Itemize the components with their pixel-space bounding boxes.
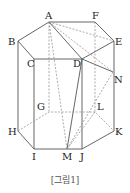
label-D: D <box>73 58 81 69</box>
label-M: M <box>62 151 72 162</box>
label-G: G <box>37 101 45 112</box>
label-C: C <box>27 58 35 69</box>
label-B: B <box>8 36 15 47</box>
label-A: A <box>44 10 53 21</box>
figure-caption: [그림1] <box>0 173 130 186</box>
label-K: K <box>115 126 123 137</box>
label-H: H <box>8 126 17 137</box>
hexagonal-prism-diagram: A F B E C D N G L H K I M J <box>0 0 130 193</box>
label-L: L <box>97 101 104 112</box>
solid-edges <box>18 22 114 149</box>
label-I: I <box>32 151 36 162</box>
label-N: N <box>114 74 123 85</box>
label-J: J <box>79 151 84 162</box>
label-F: F <box>92 10 99 21</box>
label-E: E <box>115 36 122 47</box>
